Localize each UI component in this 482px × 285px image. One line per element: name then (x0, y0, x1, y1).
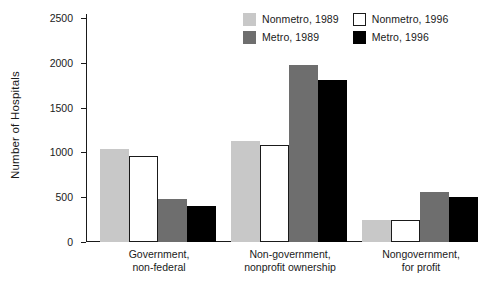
bar-nonmetro-1996 (391, 220, 420, 242)
category-label-line1: Government, (86, 248, 232, 261)
y-tick-label: 2000 (50, 57, 73, 69)
category-label-non-government-nonprofit: Non-government, nonprofit ownership (217, 248, 363, 274)
y-axis-title: Number of Hospitals (4, 0, 26, 250)
y-axis-title-text: Number of Hospitals (9, 71, 21, 179)
bar-metro-1989 (420, 192, 449, 242)
y-tick-label: 0 (67, 236, 73, 248)
y-tick-2500: 2500 (81, 18, 86, 19)
y-tick-0: 0 (81, 242, 86, 243)
y-axis-line (86, 14, 87, 242)
y-tick-label: 1000 (50, 146, 73, 158)
bar-nonmetro-1989 (362, 220, 391, 242)
bar-metro-1996 (318, 80, 347, 242)
category-label-nongovernment-for-profit: Nongovernment, for profit (348, 248, 482, 274)
y-tick-label: 1500 (50, 102, 73, 114)
bar-metro-1996 (187, 206, 216, 242)
bar-nonmetro-1989 (100, 149, 129, 242)
bar-nonmetro-1989 (231, 141, 260, 242)
bar-group-non-government-nonprofit (231, 18, 347, 242)
bar-metro-1989 (158, 199, 187, 242)
y-tick-2000: 2000 (81, 63, 86, 64)
bar-nonmetro-1996 (260, 145, 289, 242)
bar-nonmetro-1996 (129, 156, 158, 242)
y-tick-1000: 1000 (81, 152, 86, 153)
category-label-line2: nonprofit ownership (217, 261, 363, 274)
y-tick-label: 500 (55, 191, 73, 203)
bar-metro-1989 (289, 65, 318, 242)
category-label-line2: non-federal (86, 261, 232, 274)
category-label-line1: Non-government, (217, 248, 363, 261)
y-tick-1500: 1500 (81, 108, 86, 109)
category-label-line2: for profit (348, 261, 482, 274)
y-tick-500: 500 (81, 197, 86, 198)
plot-area: 2500 2000 1500 1000 500 0 (86, 18, 468, 242)
y-tick-label: 2500 (50, 12, 73, 24)
bar-group-nongovernment-for-profit (362, 18, 478, 242)
category-label-government-non-federal: Government, non-federal (86, 248, 232, 274)
category-label-line1: Nongovernment, (348, 248, 482, 261)
bar-metro-1996 (449, 197, 478, 242)
bar-group-government-non-federal (100, 18, 216, 242)
